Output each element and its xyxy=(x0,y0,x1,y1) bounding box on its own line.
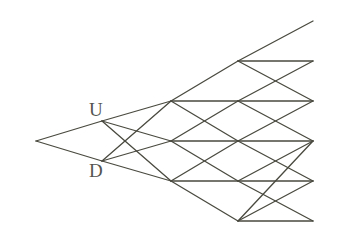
edge-group xyxy=(36,21,313,221)
edge-L3_0-L4_0 xyxy=(238,21,313,61)
node-label-d: D xyxy=(89,160,103,181)
node-label-u: U xyxy=(89,99,103,120)
lattice-tree-diagram: U D xyxy=(0,0,341,238)
edge-U-L2_0 xyxy=(102,101,171,121)
edge-root-U xyxy=(36,121,102,141)
label-group: U D xyxy=(89,99,103,181)
edge-L2_0-L3_0 xyxy=(171,61,238,101)
edge-L2_2-L3_4 xyxy=(171,181,238,221)
edge-D-L2_2 xyxy=(102,161,171,181)
edge-root-D xyxy=(36,141,102,161)
edge-D-L2_1 xyxy=(102,141,171,161)
edge-D-L2_0 xyxy=(102,101,171,161)
